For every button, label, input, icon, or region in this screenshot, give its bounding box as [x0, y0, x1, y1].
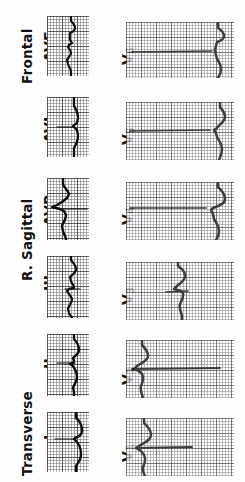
- ecg-panel-v3: [126, 262, 234, 320]
- ecg-panel-v1: [126, 418, 234, 476]
- ecg-panel-iii: [47, 256, 89, 318]
- ecg-panel-i: [47, 412, 89, 472]
- ecg-panel-v4: [126, 182, 234, 240]
- plane-label-transverse: Transverse: [21, 391, 35, 476]
- ecg-figure: Frontal R. Sagittal Transverse AVF AVL A…: [0, 0, 245, 482]
- ecg-panel-v6: [126, 22, 234, 78]
- ecg-panel-avf: [47, 16, 89, 76]
- ecg-panel-v2: [126, 340, 234, 398]
- ecg-panel-v5: [126, 102, 234, 160]
- ecg-panel-avr: [47, 178, 89, 240]
- plane-label-frontal: Frontal: [21, 29, 35, 85]
- ecg-panel-ii: [47, 334, 89, 396]
- ecg-panel-avl: [47, 97, 89, 157]
- plane-label-r-sagittal: R. Sagittal: [21, 199, 35, 281]
